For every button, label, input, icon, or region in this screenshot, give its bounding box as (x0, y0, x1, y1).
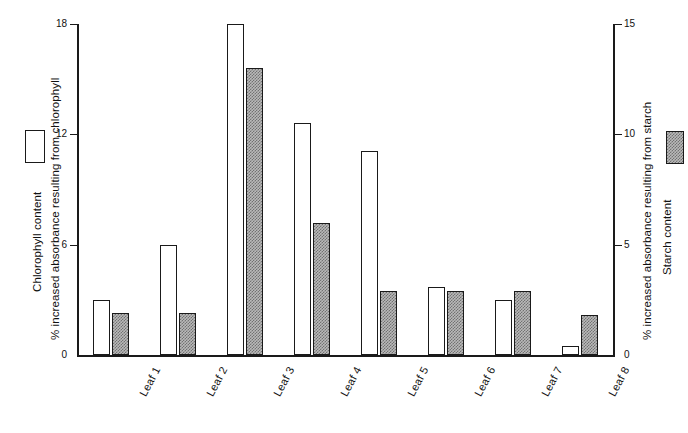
y-tick-left (70, 134, 77, 135)
bar-chlorophyll[interactable] (495, 300, 512, 355)
y-tick-label-right: 0 (624, 350, 650, 360)
bar-starch[interactable] (246, 68, 263, 355)
x-axis-category-label: Leaf 5 (406, 365, 431, 398)
bar-starch[interactable] (514, 291, 531, 355)
bar-starch[interactable] (313, 223, 330, 355)
bar-chlorophyll[interactable] (227, 24, 244, 355)
bar-starch[interactable] (380, 291, 397, 355)
plot-area: 061218051015Leaf 1Leaf 2Leaf 3Leaf 4Leaf… (0, 0, 688, 433)
bar-chlorophyll[interactable] (294, 123, 311, 355)
y-tick-label-left: 0 (41, 350, 67, 360)
y-tick-label-left: 6 (41, 240, 67, 250)
bar-chlorophyll[interactable] (93, 300, 110, 355)
y-tick-label-left: 18 (41, 19, 67, 29)
x-axis-category-label: Leaf 8 (607, 365, 632, 398)
bar-chlorophyll[interactable] (361, 151, 378, 355)
y-axis-left (77, 24, 79, 357)
bar-starch[interactable] (179, 313, 196, 355)
y-tick-left (70, 245, 77, 246)
y-tick-right (615, 245, 622, 246)
y-tick-right (615, 134, 622, 135)
y-tick-label-right: 10 (624, 129, 650, 139)
y-tick-left (70, 24, 77, 25)
y-tick-label-left: 12 (41, 129, 67, 139)
y-axis-right (613, 24, 615, 357)
bar-starch[interactable] (112, 313, 129, 355)
x-axis-category-label: Leaf 1 (138, 365, 163, 398)
bar-chlorophyll[interactable] (562, 346, 579, 355)
x-axis-category-label: Leaf 7 (540, 365, 565, 398)
x-axis-category-label: Leaf 3 (272, 365, 297, 398)
y-tick-label-right: 5 (624, 240, 650, 250)
bar-chlorophyll[interactable] (160, 245, 177, 355)
y-tick-right (615, 24, 622, 25)
y-tick-label-right: 15 (624, 19, 650, 29)
bar-chlorophyll[interactable] (428, 287, 445, 355)
chart-figure: % increased absorbance resulting from ch… (0, 0, 688, 433)
bar-starch[interactable] (581, 315, 598, 355)
bar-starch[interactable] (447, 291, 464, 355)
x-axis-category-label: Leaf 2 (205, 365, 230, 398)
x-axis (77, 355, 615, 357)
x-axis-category-label: Leaf 6 (473, 365, 498, 398)
x-axis-category-label: Leaf 4 (339, 365, 364, 398)
